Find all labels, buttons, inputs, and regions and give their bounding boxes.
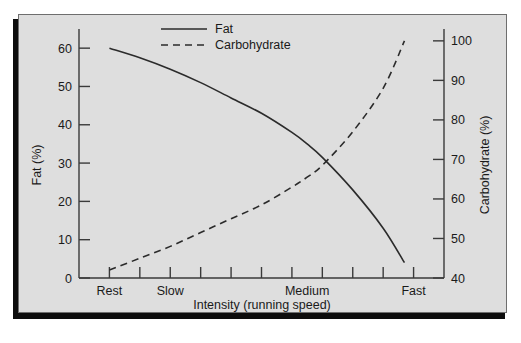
chart-figure-frame: 0102030405060 405060708090100 RestSlowMe… (18, 14, 507, 313)
series-line-fat (109, 48, 404, 263)
left-tick-label: 40 (58, 118, 72, 132)
x-category-label: Rest (97, 284, 123, 298)
left-tick-label: 30 (58, 157, 72, 171)
left-tick-label: 10 (58, 233, 72, 247)
screenshot-root: 0102030405060 405060708090100 RestSlowMe… (0, 0, 521, 343)
right-axis-ticks: 405060708090100 (433, 34, 472, 285)
y-axis-title: Fat (%) (30, 145, 44, 186)
legend-label-fat: Fat (215, 22, 234, 36)
x-category-label: Fast (401, 284, 426, 298)
right-tick-label: 70 (451, 153, 465, 167)
chart-canvas: 0102030405060 405060708090100 RestSlowMe… (19, 15, 508, 314)
right-tick-label: 50 (451, 232, 465, 246)
axis-lines (79, 29, 444, 278)
left-tick-label: 0 (65, 272, 72, 286)
series-layer (109, 41, 404, 270)
chart-legend: Fat Carbohydrate (161, 22, 291, 52)
left-tick-label: 20 (58, 195, 72, 209)
x-axis-ticks (109, 267, 413, 278)
right-tick-label: 80 (451, 113, 465, 127)
y2-axis-title: Carbohydrate (%) (478, 116, 492, 215)
right-tick-label: 90 (451, 74, 465, 88)
right-tick-label: 100 (451, 34, 472, 48)
left-axis-ticks: 0102030405060 (58, 42, 90, 286)
x-category-label: Slow (157, 284, 185, 298)
left-tick-label: 60 (58, 42, 72, 56)
x-category-label: Medium (285, 284, 329, 298)
right-tick-label: 40 (451, 272, 465, 286)
right-tick-label: 60 (451, 192, 465, 206)
x-category-labels: RestSlowMediumFast (97, 284, 427, 298)
left-tick-label: 50 (58, 80, 72, 94)
x-axis-title: Intensity (running speed) (193, 298, 331, 312)
legend-label-carbohydrate: Carbohydrate (215, 38, 291, 52)
series-line-carbohydrate (109, 41, 404, 270)
